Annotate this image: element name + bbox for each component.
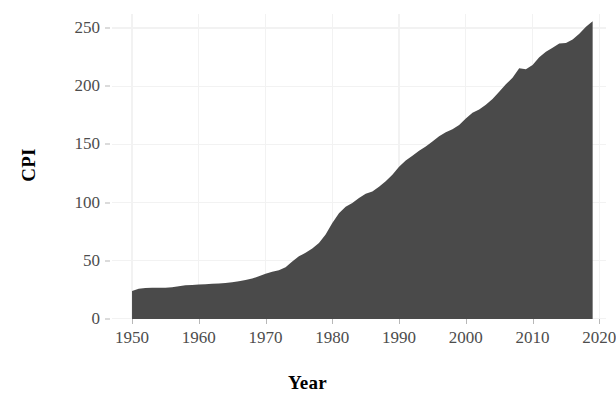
x-tick-label: 1950 — [115, 328, 149, 348]
y-tick-label: 100 — [75, 193, 101, 213]
x-tick-label: 2010 — [516, 328, 550, 348]
x-tick-mark — [599, 319, 600, 324]
y-tick-label: 200 — [75, 76, 101, 96]
y-tick-mark — [105, 319, 110, 320]
y-tick-mark — [105, 27, 110, 28]
y-tick-label: 50 — [83, 251, 100, 271]
x-axis-title: Year — [0, 372, 615, 394]
x-tick-mark — [266, 319, 267, 324]
x-tick-mark — [466, 319, 467, 324]
cpi-area-series — [132, 21, 593, 319]
x-tick-mark — [132, 319, 133, 324]
x-tick-mark — [533, 319, 534, 324]
y-tick-mark — [105, 260, 110, 261]
x-tick-label: 2020 — [582, 328, 616, 348]
x-tick-label: 1960 — [182, 328, 216, 348]
plot-area-svg — [112, 14, 606, 319]
y-tick-label: 150 — [75, 134, 101, 154]
x-tick-mark — [399, 319, 400, 324]
y-axis-title: CPI — [14, 0, 44, 330]
x-tick-mark — [199, 319, 200, 324]
x-tick-label: 1980 — [315, 328, 349, 348]
x-axis-ticks: 19501960197019801990200020102020 — [0, 322, 615, 362]
y-tick-label: 250 — [75, 18, 101, 38]
plot-panel — [112, 14, 606, 319]
y-tick-mark — [105, 144, 110, 145]
x-tick-mark — [332, 319, 333, 324]
y-tick-mark — [105, 202, 110, 203]
y-axis-title-text: CPI — [18, 148, 40, 182]
y-tick-mark — [105, 86, 110, 87]
x-tick-label: 1990 — [382, 328, 416, 348]
x-tick-label: 1970 — [249, 328, 283, 348]
x-tick-label: 2000 — [449, 328, 483, 348]
